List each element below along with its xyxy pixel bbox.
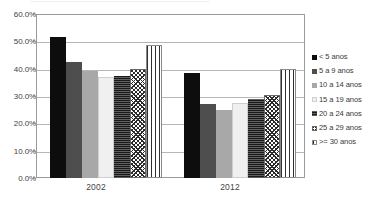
legend-swatch-icon bbox=[312, 83, 317, 88]
bar-2012-15-a-19-anos bbox=[232, 103, 248, 178]
bar-2012-5-a-9-anos bbox=[200, 104, 216, 178]
y-tick-label: 40.0% bbox=[0, 66, 36, 74]
legend-label: >= 30 anos bbox=[319, 138, 356, 146]
legend-label: 10 a 14 anos bbox=[319, 81, 362, 89]
legend-label: 20 a 24 anos bbox=[319, 110, 362, 118]
y-tick-label: 10.0% bbox=[0, 148, 36, 156]
x-tick-label-2002: 2002 bbox=[76, 183, 116, 192]
y-tick-label: 50.0% bbox=[0, 38, 36, 46]
legend-item-5-a-9-anos[interactable]: 5 a 9 anos bbox=[312, 64, 380, 78]
bar-2012-gte-30-anos bbox=[280, 69, 296, 178]
bars-layer bbox=[36, 14, 305, 178]
legend-item-20-a-24-anos[interactable]: 20 a 24 anos bbox=[312, 107, 380, 121]
y-tick-label: 30.0% bbox=[0, 93, 36, 101]
y-tick-mark bbox=[32, 178, 36, 179]
legend-swatch-icon bbox=[312, 111, 317, 116]
bar-2002-5-a-9-anos bbox=[66, 62, 82, 178]
legend-swatch-icon bbox=[312, 55, 317, 60]
legend-swatch-icon bbox=[312, 140, 317, 145]
legend-item-25-a-29-anos[interactable]: 25 a 29 anos bbox=[312, 121, 380, 135]
legend-label: 15 a 19 anos bbox=[319, 96, 362, 104]
bar-2012-25-a-29-anos bbox=[264, 95, 280, 178]
y-tick-label: 0.0% bbox=[0, 175, 36, 183]
y-tick-label: 20.0% bbox=[0, 120, 36, 128]
legend-item-10-a-14-anos[interactable]: 10 a 14 anos bbox=[312, 78, 380, 92]
legend-swatch-icon bbox=[312, 126, 317, 131]
legend-item-gte-30-anos[interactable]: >= 30 anos bbox=[312, 135, 380, 149]
bar-2002-lt-5-anos bbox=[50, 37, 66, 178]
bar-2002-20-a-24-anos bbox=[114, 76, 130, 179]
legend-item-lt-5-anos[interactable]: < 5 anos bbox=[312, 50, 380, 64]
bar-2002-15-a-19-anos bbox=[98, 77, 114, 178]
chart-legend: < 5 anos 5 a 9 anos 10 a 14 anos 15 a 19… bbox=[312, 50, 380, 149]
top-edge-artifact bbox=[30, 1, 210, 2]
legend-label: < 5 anos bbox=[319, 53, 348, 61]
bar-2002-25-a-29-anos bbox=[130, 69, 146, 178]
x-tick-label-2012: 2012 bbox=[210, 183, 250, 192]
bar-2002-10-a-14-anos bbox=[82, 71, 98, 178]
legend-item-15-a-19-anos[interactable]: 15 a 19 anos bbox=[312, 93, 380, 107]
bar-2002-gte-30-anos bbox=[146, 45, 162, 178]
bar-2012-20-a-24-anos bbox=[248, 99, 264, 178]
legend-label: 25 a 29 anos bbox=[319, 124, 362, 132]
legend-swatch-icon bbox=[312, 69, 317, 74]
bar-chart: 60.0% 50.0% 40.0% 30.0% 20.0% 10.0% 0.0% bbox=[0, 0, 380, 202]
bar-2012-10-a-14-anos bbox=[216, 110, 232, 178]
legend-swatch-icon bbox=[312, 97, 317, 102]
bar-2012-lt-5-anos bbox=[184, 73, 200, 178]
y-tick-label: 60.0% bbox=[0, 11, 36, 19]
legend-label: 5 a 9 anos bbox=[319, 67, 353, 75]
